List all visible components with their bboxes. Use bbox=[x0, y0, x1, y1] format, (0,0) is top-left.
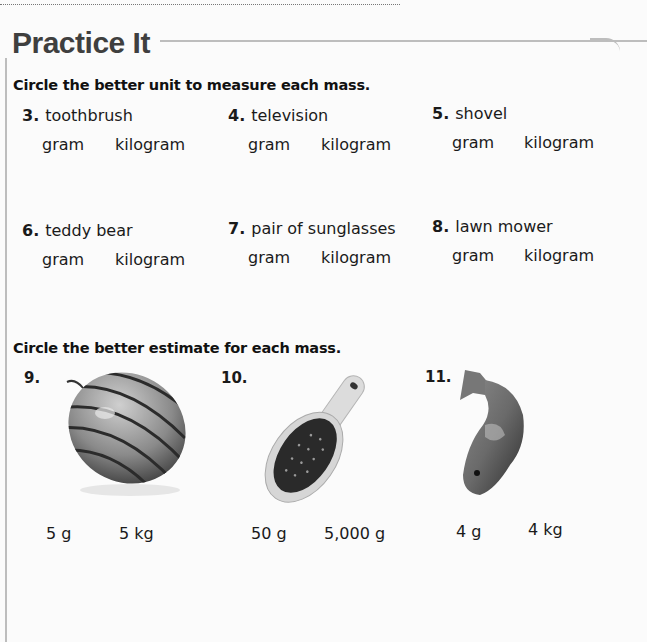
question-number: 8. bbox=[432, 217, 449, 236]
question-number-9: 9. bbox=[24, 369, 40, 387]
instruction-estimate: Circle the better estimate for each mass… bbox=[13, 340, 341, 356]
choice-gram[interactable]: gram bbox=[248, 248, 290, 267]
question-number: 4. bbox=[228, 106, 245, 125]
question-8: 8.lawn mower gramkilogram bbox=[432, 217, 553, 270]
question-7: 7.pair of sunglasses gramkilogram bbox=[228, 219, 396, 272]
question-object: toothbrush bbox=[45, 106, 133, 125]
question-object: pair of sunglasses bbox=[251, 219, 395, 238]
question-object: shovel bbox=[455, 104, 507, 123]
page-divider bbox=[0, 4, 400, 5]
instruction-units: Circle the better unit to measure each m… bbox=[13, 77, 370, 93]
choice-5-g[interactable]: 5 g bbox=[46, 524, 71, 543]
question-6: 6.teddy bear gramkilogram bbox=[22, 221, 133, 274]
choice-kilogram[interactable]: kilogram bbox=[524, 133, 594, 152]
choice-5-kg[interactable]: 5 kg bbox=[119, 524, 154, 543]
fish-image bbox=[455, 365, 535, 500]
question-number: 3. bbox=[22, 106, 39, 125]
choice-gram[interactable]: gram bbox=[42, 135, 84, 154]
choice-gram[interactable]: gram bbox=[452, 133, 494, 152]
question-4: 4.television gramkilogram bbox=[228, 106, 328, 159]
choice-kilogram[interactable]: kilogram bbox=[524, 246, 594, 265]
choice-kilogram[interactable]: kilogram bbox=[115, 135, 185, 154]
choice-4-g[interactable]: 4 g bbox=[456, 522, 481, 541]
question-object: lawn mower bbox=[455, 217, 552, 236]
choice-5000-g[interactable]: 5,000 g bbox=[324, 524, 385, 543]
question-number: 7. bbox=[228, 219, 245, 238]
question-number-10: 10. bbox=[221, 369, 248, 387]
hairbrush-image bbox=[250, 368, 380, 503]
choice-gram[interactable]: gram bbox=[42, 250, 84, 269]
question-object: teddy bear bbox=[45, 221, 132, 240]
question-number: 6. bbox=[22, 221, 39, 240]
choice-kilogram[interactable]: kilogram bbox=[321, 248, 391, 267]
question-object: television bbox=[251, 106, 328, 125]
question-number: 5. bbox=[432, 104, 449, 123]
question-number-11: 11. bbox=[425, 368, 452, 386]
choice-50-g[interactable]: 50 g bbox=[251, 524, 287, 543]
question-5: 5.shovel gramkilogram bbox=[432, 104, 507, 157]
choice-gram[interactable]: gram bbox=[248, 135, 290, 154]
choice-kilogram[interactable]: kilogram bbox=[321, 135, 391, 154]
choice-gram[interactable]: gram bbox=[452, 246, 494, 265]
section-title: Practice It bbox=[12, 26, 150, 60]
watermelon-image bbox=[45, 368, 195, 498]
question-3: 3.toothbrush gramkilogram bbox=[22, 106, 133, 159]
choice-kilogram[interactable]: kilogram bbox=[115, 250, 185, 269]
frame-corner bbox=[590, 38, 620, 60]
choice-4-kg[interactable]: 4 kg bbox=[528, 520, 563, 539]
